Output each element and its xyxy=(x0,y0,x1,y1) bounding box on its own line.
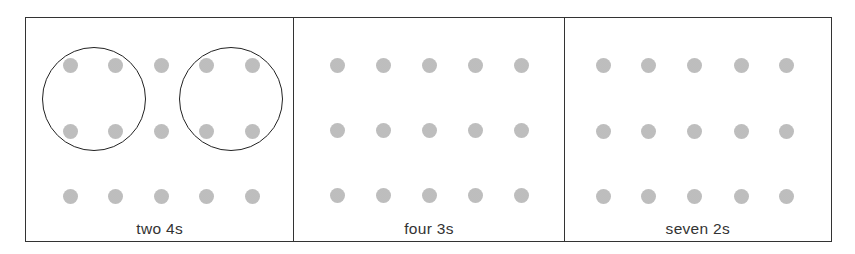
dot xyxy=(422,58,437,73)
dot xyxy=(779,189,794,204)
panel-two-4s: two 4s xyxy=(26,18,293,241)
dot xyxy=(154,189,169,204)
dot xyxy=(734,189,749,204)
grouping-figure: two 4s four 3s seven 2s xyxy=(25,17,832,242)
panel-label: two 4s xyxy=(26,220,293,238)
dot xyxy=(63,189,78,204)
dot xyxy=(376,123,391,138)
panel-label: seven 2s xyxy=(565,220,831,238)
dot xyxy=(245,189,260,204)
dot xyxy=(330,188,345,203)
dot xyxy=(596,124,611,139)
dot xyxy=(596,58,611,73)
dot xyxy=(422,188,437,203)
dot xyxy=(330,123,345,138)
group-circle xyxy=(179,47,283,151)
dot xyxy=(108,189,123,204)
dot xyxy=(376,58,391,73)
dot xyxy=(199,189,214,204)
panel-label: four 3s xyxy=(294,220,563,238)
dot xyxy=(641,189,656,204)
dot xyxy=(596,189,611,204)
dot xyxy=(514,123,529,138)
panel-four-3s: four 3s xyxy=(293,18,563,241)
dot xyxy=(154,58,169,73)
dot xyxy=(376,188,391,203)
dot xyxy=(779,58,794,73)
dot xyxy=(514,188,529,203)
dot xyxy=(641,124,656,139)
panel-seven-2s: seven 2s xyxy=(564,18,831,241)
dot xyxy=(687,189,702,204)
dot xyxy=(687,58,702,73)
dot xyxy=(154,124,169,139)
dot xyxy=(734,124,749,139)
dot xyxy=(468,58,483,73)
group-circle xyxy=(42,47,146,151)
dot xyxy=(330,58,345,73)
dot xyxy=(641,58,656,73)
dot xyxy=(779,124,794,139)
dot xyxy=(734,58,749,73)
dot xyxy=(514,58,529,73)
dot xyxy=(468,123,483,138)
dot xyxy=(468,188,483,203)
dot xyxy=(687,124,702,139)
dot xyxy=(422,123,437,138)
